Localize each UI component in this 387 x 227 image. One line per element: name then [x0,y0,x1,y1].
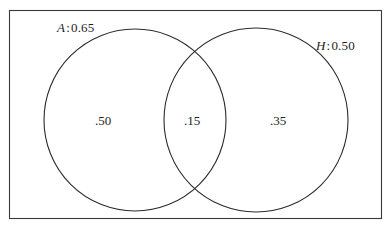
set-h-probability: 0.50 [331,38,355,53]
set-a-variable: A [57,20,65,35]
set-a-probability: 0.65 [71,20,95,35]
set-h-variable: H [316,38,326,53]
region-value-a-only: .50 [95,113,111,129]
venn-diagram-figure: A:0.65 H:0.50 .50 .15 .35 [0,0,387,227]
set-label-a: A:0.65 [57,20,95,36]
region-value-h-only: .35 [270,113,286,129]
region-value-intersection: .15 [184,113,200,129]
set-label-h: H:0.50 [316,38,355,54]
